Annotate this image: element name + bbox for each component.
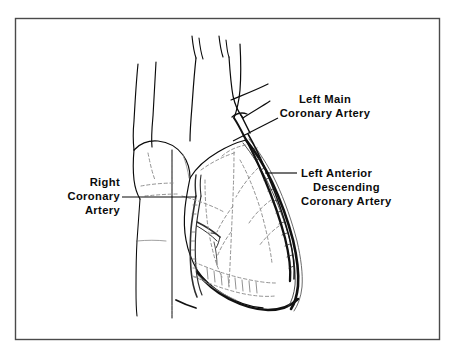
coronary-artery-figure: Left Main Coronary Artery Left Anterior … <box>0 0 455 358</box>
label-left-main-line-1: Left Main <box>299 93 351 105</box>
label-lad-line-3: Coronary Artery <box>301 195 392 207</box>
label-rca-line-1: Right <box>90 176 120 188</box>
label-rca-line-3: Artery <box>85 204 120 216</box>
label-lad-line-2: Descending <box>313 181 380 193</box>
heart-anatomy-illustration: Left Main Coronary Artery Left Anterior … <box>0 0 455 358</box>
right-coronary-artery-proximal <box>195 175 196 196</box>
label-rca-line-2: Coronary <box>67 190 120 202</box>
label-left-main-line-2: Coronary Artery <box>280 107 371 119</box>
label-lad-line-1: Left Anterior <box>301 167 373 179</box>
